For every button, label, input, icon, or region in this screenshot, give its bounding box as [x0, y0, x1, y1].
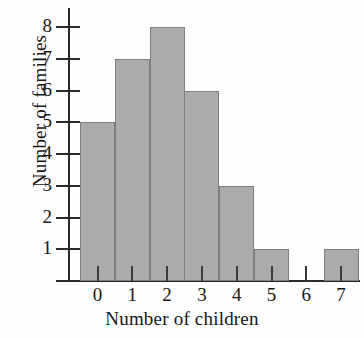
y-axis-tick	[56, 121, 80, 123]
x-axis-tick-label: 0	[86, 284, 110, 306]
x-axis-tick-label: 1	[120, 284, 144, 306]
histogram-figure: 12345678 01234567 Number of families Num…	[0, 0, 364, 338]
x-axis-tick	[166, 266, 168, 281]
bar	[115, 59, 150, 281]
y-axis-tick	[56, 153, 80, 155]
y-axis-tick	[56, 58, 80, 60]
x-axis-tick	[97, 266, 99, 281]
y-axis-tick-label-text: 1	[30, 238, 52, 257]
x-axis-title: Number of children	[0, 308, 364, 330]
bar	[184, 91, 219, 281]
x-axis-tick-label: 5	[260, 284, 284, 306]
plot-area: 12345678 01234567	[0, 0, 364, 338]
y-axis-tick	[56, 248, 80, 250]
bar	[150, 27, 185, 281]
y-axis-tick	[56, 185, 80, 187]
x-axis-tick	[271, 266, 273, 281]
x-axis-tick	[340, 266, 342, 281]
y-axis-tick	[56, 217, 80, 219]
y-axis-tick	[56, 26, 80, 28]
y-axis-tick-label: 1	[30, 238, 52, 257]
x-axis-tick	[201, 266, 203, 281]
x-axis-tick	[305, 266, 307, 281]
y-axis-title: Number of families	[29, 0, 51, 231]
x-axis-tick-label: 3	[190, 284, 214, 306]
bar	[80, 122, 115, 281]
x-axis-tick	[236, 266, 238, 281]
x-axis-tick-label: 7	[329, 284, 353, 306]
x-axis-tick-label: 6	[294, 284, 318, 306]
x-axis-tick-label: 2	[155, 284, 179, 306]
y-axis-spine	[68, 8, 70, 282]
y-axis-tick	[56, 90, 80, 92]
x-axis-tick-label: 4	[225, 284, 249, 306]
x-axis-tick	[131, 266, 133, 281]
